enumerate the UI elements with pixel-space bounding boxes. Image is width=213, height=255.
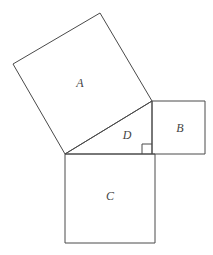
triangle-d-outline	[65, 101, 152, 154]
right-angle-marker-icon	[142, 144, 152, 154]
geometry-figure: A B C D	[0, 0, 213, 255]
square-a-label: A	[76, 77, 83, 89]
triangle-d-label: D	[123, 129, 132, 141]
square-b-label: B	[176, 122, 183, 134]
square-c-label: C	[106, 190, 114, 202]
